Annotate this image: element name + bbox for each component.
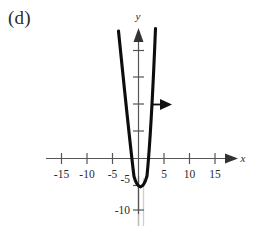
direction-arrow [152, 99, 172, 110]
parabola-left-branch [119, 31, 141, 187]
y-tick-label--5: -5 [120, 173, 130, 185]
x-tick-label--10: -10 [79, 168, 95, 180]
x-axis-label: x [240, 152, 246, 164]
direction-arrow-head [160, 99, 172, 110]
x-tick-label-10: 10 [184, 168, 196, 180]
x-axis-arrowhead [225, 154, 238, 164]
parabola-curve [119, 29, 156, 187]
figure-panel: (d) -15 -10 -5 5 10 15 x [0, 0, 255, 226]
x-tick-label-5: 5 [161, 168, 167, 180]
coordinate-plot: -15 -10 -5 5 10 15 x -5 -10 y [0, 0, 255, 226]
x-tick-label--5: -5 [108, 168, 118, 180]
y-axis-label: y [135, 10, 141, 22]
x-tick-label-15: 15 [209, 168, 221, 180]
y-tick-label--10: -10 [115, 204, 131, 216]
y-axis-arrowhead [134, 28, 144, 42]
x-tick-label--15: -15 [54, 168, 70, 180]
parabola-right-branch [141, 29, 156, 187]
